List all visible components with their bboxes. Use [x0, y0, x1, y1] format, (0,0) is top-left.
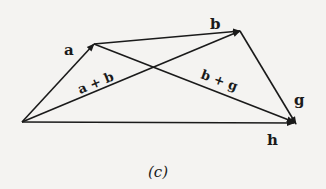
label-h: h	[267, 131, 278, 149]
vector-h	[22, 122, 294, 123]
label-g: g	[294, 91, 305, 109]
label-a: a	[64, 41, 74, 59]
label-a-plus-b: a + b	[76, 69, 116, 97]
label-b-plus-g: b + g	[199, 67, 240, 94]
vector-b-plus-g	[94, 44, 294, 122]
figure-caption: (c)	[148, 163, 168, 181]
vector-diagram: a b g h a + b b + g (c)	[0, 0, 326, 189]
label-b: b	[210, 15, 221, 33]
vector-g	[240, 31, 296, 124]
